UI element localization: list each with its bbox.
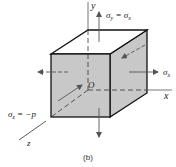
y-axis-label: y [90,0,96,11]
z-axis-line [19,121,46,140]
figure-caption: (b) [83,153,93,162]
sigma-z-label: σz = −p [8,109,36,120]
x-axis-label: x [163,90,169,101]
sigma-y-label: σy = σx [106,10,131,21]
stress-cube-diagram: y x z O σy = σx σx σz = −p (b) [0,0,176,167]
origin-label: O [88,80,95,90]
sigma-x-label: σx [163,67,170,78]
z-axis-label: z [26,138,31,148]
